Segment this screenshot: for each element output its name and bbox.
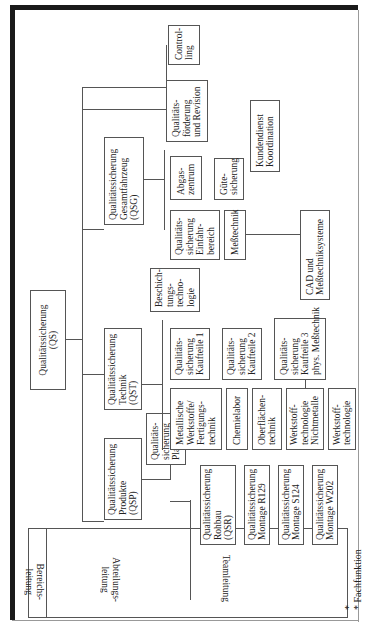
level-bereichsleitung: Bereichs-leitung <box>24 564 45 600</box>
box-qs: Qualitätssicherung(QS) <box>30 290 66 390</box>
connector <box>144 179 164 180</box>
connector <box>82 109 166 110</box>
box-oberflaechentechnik: Oberflächen-technik <box>252 388 282 450</box>
box-werkstofftechnologie-nichtmetalle: Werkstoff-technologieNichtmetalle <box>286 388 324 450</box>
connector <box>164 150 165 230</box>
level-abteilungsleitung: Abteilungs-leitung <box>100 557 121 602</box>
box-kundendienst-koordination: KundendienstKoordination <box>250 100 280 172</box>
connector <box>142 384 162 385</box>
level-divider <box>46 528 47 618</box>
box-qs-montage-s124: QualitätssicherungMontage S124 <box>278 465 304 545</box>
box-chemielabor: Chemielabor <box>226 388 248 450</box>
connector <box>166 45 167 110</box>
box-guetesicherung: Güte-sicherung <box>214 158 244 200</box>
box-metallische-werkstoffe: MetallischeWerkstoffe/Fertigungs-technik <box>170 388 222 450</box>
connector <box>82 374 104 375</box>
box-beschichtungstechnologie: Beschich-tungs-techno-logie <box>150 268 200 312</box>
box-qsp: QualitätssicherungProdukte(QSP) <box>104 438 142 520</box>
connector <box>246 234 306 235</box>
box-abgaszentrum: Abgas-zentrum <box>170 156 202 200</box>
connector <box>82 87 166 88</box>
box-messtechnik: Meßtechnik <box>224 210 246 260</box>
box-werkstofftechnologie: Werkstoff-technologie <box>328 388 356 450</box>
connector <box>170 501 190 502</box>
connector <box>82 229 104 230</box>
box-qs-kaufteile-1: Qualitäts-sicherungKaufteile 1 <box>170 328 210 380</box>
box-controlling: Control-ling <box>168 25 200 65</box>
box-qs-rohbau: QualitätssicherungRohbau(QSR) <box>200 465 236 545</box>
connector <box>82 521 104 522</box>
box-qualitaetsfoerderung: Qualitäts-förderungund Revision <box>166 80 208 142</box>
connector <box>66 339 82 340</box>
level-teamleitung: Teamleitung <box>220 555 231 602</box>
connector <box>190 500 191 600</box>
box-qs-montage-r129: QualitätssicherungMontage R129 <box>244 465 270 545</box>
footnote-fachfunktion: * Fachfunktion <box>352 549 363 610</box>
connector <box>162 320 163 450</box>
box-qs-montage-w202: QualitätssicherungMontage W202 <box>312 465 338 545</box>
connector <box>82 88 83 522</box>
connector <box>142 479 170 480</box>
box-qsg: QualitätssicherungGesamtfahrzeug(QSG) <box>104 137 144 225</box>
box-qst: QualitätssicherungTechnik(QST) <box>104 328 142 410</box>
box-cad-messtechniksysteme: CAD undMeßtechniksysteme <box>300 210 330 300</box>
box-qs-kaufteile-2: Qualitäts-sicherungKaufteile 2 <box>222 328 262 380</box>
box-qs-kaufteile-3: Qualitäts-sicherungKaufteile 3phys. Meßt… <box>274 318 326 380</box>
org-chart: Bereichs-leitung Abteilungs-leitung Team… <box>0 0 368 630</box>
box-qs-einfahrbereich: Qualitäts-sicherungEinfahr-bereich <box>170 210 220 260</box>
